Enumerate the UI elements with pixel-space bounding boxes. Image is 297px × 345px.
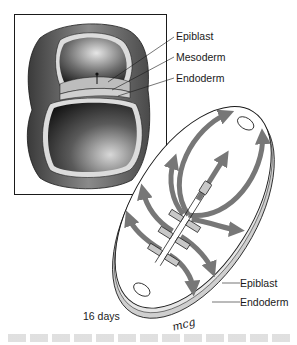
label-disc-endoderm: Endoderm: [240, 296, 288, 308]
label-inset-endoderm: Endoderm: [176, 72, 224, 84]
label-inset-mesoderm: Mesoderm: [176, 51, 226, 63]
label-disc-epiblast: Epiblast: [240, 277, 277, 289]
label-inset-epiblast: Epiblast: [176, 30, 213, 42]
caption-fragment: [8, 334, 290, 342]
stage-label: 16 days: [83, 310, 120, 322]
embryo-illustration: [0, 0, 297, 345]
